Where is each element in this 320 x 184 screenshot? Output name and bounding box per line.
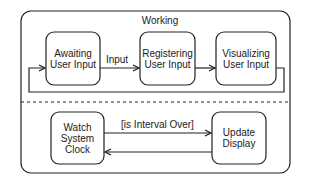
state-visualizing-line2: User Input (222, 59, 270, 70)
state-visualizing-line1: Visualizing (222, 48, 270, 59)
state-watch-label: Watch System Clock (51, 112, 104, 164)
state-watch-line3: Clock (61, 144, 94, 155)
transition-label-is-interval-over: [is Interval Over] (115, 119, 200, 130)
state-registering-label: Registering User Input (140, 32, 195, 85)
state-registering-line2: User Input (142, 59, 193, 70)
state-watch-line1: Watch (61, 122, 94, 133)
state-registering-line1: Registering (142, 48, 193, 59)
state-awaiting-label: Awaiting User Input (46, 32, 100, 85)
state-update-line2: Display (223, 138, 256, 149)
state-watch-line2: System (61, 133, 94, 144)
state-awaiting-line2: User Input (50, 59, 96, 70)
state-update-label: Update Display (212, 112, 266, 164)
composite-state-title: Working (130, 15, 190, 26)
state-awaiting-line1: Awaiting (50, 48, 96, 59)
transition-label-input: Input (102, 54, 132, 65)
state-visualizing-label: Visualizing User Input (216, 32, 276, 85)
state-update-line1: Update (223, 127, 256, 138)
